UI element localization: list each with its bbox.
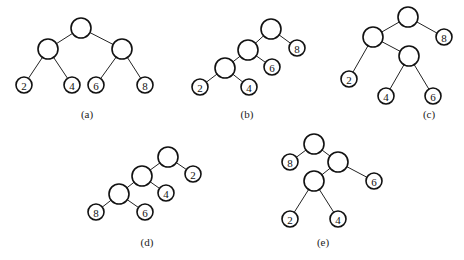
internal-node — [304, 134, 324, 154]
tree-e: 8624(e) — [282, 134, 382, 249]
leaf-label: 4 — [163, 188, 169, 200]
leaf-label: 8 — [294, 43, 300, 55]
internal-node — [238, 40, 258, 60]
internal-node — [132, 166, 152, 186]
leaf-label: 2 — [190, 169, 196, 181]
leaf-label: 4 — [69, 80, 75, 92]
tree-b: 8624(b) — [192, 19, 305, 121]
leaf-label: 8 — [142, 80, 148, 92]
internal-node — [109, 184, 129, 204]
leaf-label: 6 — [142, 207, 148, 219]
tree-caption: (c) — [423, 108, 436, 121]
tree-caption: (b) — [241, 108, 254, 121]
internal-node — [112, 39, 132, 59]
internal-node — [304, 171, 324, 191]
leaf-label: 6 — [430, 91, 436, 103]
internal-node — [398, 7, 418, 27]
internal-node — [328, 152, 348, 172]
leaf-label: 4 — [383, 91, 389, 103]
tree-caption: (a) — [81, 108, 94, 121]
leaf-label: 2 — [346, 74, 352, 86]
internal-node — [399, 46, 419, 66]
internal-node — [71, 18, 91, 38]
leaf-label: 6 — [93, 80, 99, 92]
tree-c: 8246(c) — [341, 7, 452, 121]
leaf-label: 2 — [197, 82, 203, 94]
leaf-label: 4 — [246, 82, 252, 94]
internal-node — [363, 27, 383, 47]
leaf-label: 8 — [441, 32, 447, 44]
internal-node — [261, 19, 281, 39]
leaf-label: 2 — [287, 214, 293, 226]
internal-node — [215, 58, 235, 78]
binary-trees-diagram: 2468(a)8624(b)8246(c)2486(d)8624(e) — [0, 0, 464, 260]
leaf-label: 8 — [93, 207, 99, 219]
internal-node — [158, 147, 178, 167]
internal-node — [38, 39, 58, 59]
tree-caption: (d) — [141, 236, 154, 249]
tree-d: 2486(d) — [88, 147, 201, 249]
tree-caption: (e) — [317, 236, 330, 249]
leaf-label: 2 — [21, 80, 27, 92]
leaf-label: 4 — [335, 214, 341, 226]
leaf-label: 8 — [287, 157, 293, 169]
leaf-label: 6 — [371, 176, 377, 188]
leaf-label: 6 — [269, 62, 275, 74]
tree-a: 2468(a) — [16, 18, 153, 121]
